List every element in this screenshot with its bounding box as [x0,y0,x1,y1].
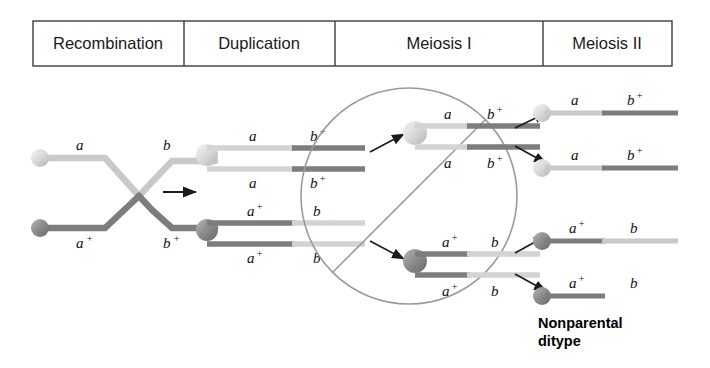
duplication-bottom-label-a-2-sup: + [256,248,263,259]
recombination-top-chromosome-left [40,158,139,196]
meiosis-i-top-label-a-2: a [444,155,452,171]
meiosis-i-bottom-label-b-1: b [491,234,499,250]
duplication-group: a b + a b + a + b a + b [196,126,365,266]
meiosis-i-top-label-b-1: b [487,106,495,122]
recombination-top-chromosome-right [139,161,215,196]
duplication-top-label-a-1: a [249,128,257,144]
header-cell-duplication: Duplication [218,34,300,52]
product-4-label-b: b [630,275,638,291]
product-1-label-b: b [627,92,635,108]
duplication-top-label-a-2: a [249,175,257,191]
duplication-to-meiosis-i-arrow-top [370,134,404,152]
recombination-label-b-bottom-sup: + [173,233,180,244]
duplication-bottom-label-a-2: a [247,250,255,266]
header-cell-recombination: Recombination [53,34,163,52]
duplication-top-label-b-2: b [310,175,318,191]
meiosis-i-top-label-b-1-sup: + [496,104,503,115]
meiosis-i-top-label-b-2-sup: + [496,153,503,164]
meiosis-two-product-4: a + b [533,273,678,305]
meiosis-i-top-label-b-2: b [487,155,495,171]
duplication-bottom-label-a-1: a [247,203,255,219]
product-2-label-b-sup: + [636,145,643,156]
duplication-top-label-b-1: b [310,128,318,144]
diagram-canvas: Recombination Duplication Meiosis I Meio… [0,0,710,368]
recombination-label-a-top: a [76,137,84,153]
product-3-label-a: a [569,220,577,236]
meiosis-i-bottom-label-a-1-sup: + [451,232,458,243]
product-2-label-a: a [571,147,579,163]
meiosis-i-bottom-label-a-2-sup: + [451,281,458,292]
meiosis-two-product-1: a b + [533,90,678,122]
stage-header-table: Recombination Duplication Meiosis I Meio… [33,21,672,66]
header-cell-meiosis-i: Meiosis I [406,34,471,52]
product-2-label-b: b [627,147,635,163]
product-4-label-a-sup: + [578,273,585,284]
header-cell-meiosis-ii: Meiosis II [572,34,642,52]
meiosis-one-top-group: a b + a b + [403,104,540,171]
recombination-label-b-bottom: b [163,235,171,251]
caption-line-2: ditype [538,333,581,349]
meiosis-i-bottom-label-b-2: b [491,283,499,299]
recombination-label-a-bottom: a [76,235,84,251]
meiosis-i-top-label-a-1: a [444,106,452,122]
nonparental-ditype-caption: Nonparental ditype [538,315,623,349]
duplication-bottom-label-b-1: b [313,203,321,219]
meiosis-i-bottom-label-a-1: a [442,234,450,250]
recombination-top-centromere [31,149,49,167]
duplication-bottom-label-a-1-sup: + [256,201,263,212]
meiosis-two-product-2: a b + [533,145,678,177]
product-3-label-b: b [630,220,638,236]
caption-line-1: Nonparental [538,315,623,331]
duplication-top-label-b-2-sup: + [319,173,326,184]
meiosis-one-bottom-group: a + b a + b [403,232,540,299]
recombination-bottom-centromere [31,219,49,237]
product-3-label-a-sup: + [578,218,585,229]
recombination-label-a-bottom-sup: + [86,233,93,244]
product-1-label-b-sup: + [636,90,643,101]
meiosis-one-cell [301,88,517,304]
duplication-to-meiosis-i-arrow-bottom [370,241,404,259]
product-1-label-a: a [571,92,579,108]
product-4-label-a: a [569,275,577,291]
recombination-group: a b a + b + [31,137,215,251]
recombination-bottom-chromosome-left [40,196,139,228]
recombination-label-b-top: b [163,137,171,153]
meiosis-two-product-3: a + b [533,218,678,250]
meiosis-i-bottom-label-a-2: a [442,283,450,299]
